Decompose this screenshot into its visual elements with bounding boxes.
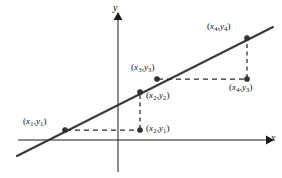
point-x3y3 bbox=[154, 76, 159, 81]
point-label-x2y1: (x2,y1) bbox=[146, 124, 170, 133]
point-label-x4y4: (x4,y4) bbox=[207, 22, 231, 31]
x-axis-label: x bbox=[271, 133, 275, 143]
slope-figure: y x (x1,y1) (x2,y1) (x2,y2) (x3,y3) (x4,… bbox=[0, 0, 282, 178]
y-axis-arrowhead bbox=[114, 12, 123, 20]
point-label-x4y3: (x4,y3) bbox=[229, 83, 253, 92]
point-x4y3 bbox=[244, 76, 249, 81]
point-x1y1 bbox=[62, 127, 67, 132]
point-x4y4 bbox=[244, 35, 249, 40]
point-x2y1 bbox=[137, 127, 142, 132]
point-label-x3y3: (x3,y3) bbox=[131, 63, 155, 72]
y-axis-label: y bbox=[113, 3, 117, 13]
point-label-x1y1: (x1,y1) bbox=[23, 117, 47, 126]
point-x2y2 bbox=[137, 89, 142, 94]
point-label-x2y2: (x2,y2) bbox=[146, 91, 170, 100]
